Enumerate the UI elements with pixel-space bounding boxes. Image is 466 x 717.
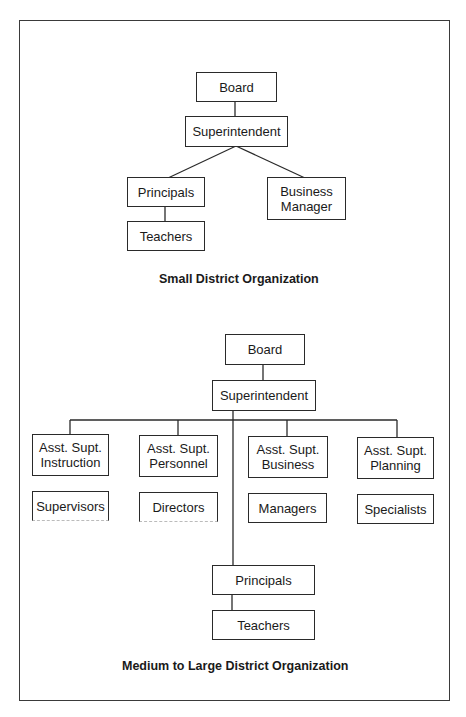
managers-node: Managers [248, 493, 327, 523]
small-board-node: Board [196, 72, 277, 102]
asst-supt-personnel-node: Asst. Supt. Personnel [139, 435, 218, 477]
large-district-title: Medium to Large District Organization [122, 659, 348, 673]
small-business-manager-node: Business Manager [267, 177, 346, 220]
small-superintendent-node: Superintendent [185, 116, 288, 147]
small-principals-node: Principals [127, 177, 205, 207]
asst-supt-instruction-node: Asst. Supt. Instruction [32, 434, 109, 476]
asst-supt-planning-node: Asst. Supt. Planning [357, 437, 434, 479]
small-district-title: Small District Organization [159, 272, 319, 286]
directors-node: Directors [139, 492, 218, 522]
supervisors-node: Supervisors [32, 491, 109, 521]
large-board-node: Board [225, 334, 305, 365]
large-teachers-node: Teachers [212, 610, 315, 640]
large-principals-node: Principals [212, 565, 315, 595]
asst-supt-business-node: Asst. Supt. Business [248, 436, 328, 478]
specialists-node: Specialists [357, 494, 434, 524]
small-teachers-node: Teachers [127, 221, 205, 251]
large-superintendent-node: Superintendent [212, 380, 316, 411]
